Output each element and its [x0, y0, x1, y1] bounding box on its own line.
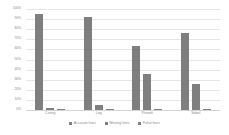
bar — [203, 109, 211, 110]
bar — [132, 46, 140, 110]
legend-label: Missing lines — [109, 121, 129, 125]
bar — [143, 74, 151, 110]
legend-swatch-icon — [138, 122, 141, 125]
bar — [57, 109, 65, 110]
y-axis-tick-label: 50% — [15, 58, 22, 62]
bar — [84, 17, 92, 110]
y-axis-tick-label: 60% — [15, 48, 22, 52]
bar-group — [123, 9, 172, 110]
plot-area — [26, 9, 220, 110]
legend-swatch-icon — [105, 122, 108, 125]
y-axis-tick-label: 30% — [15, 78, 22, 82]
bar — [192, 84, 200, 110]
bar-group — [75, 9, 124, 110]
bars-layer — [26, 9, 220, 110]
y-axis-tick-label: 100% — [13, 7, 21, 11]
y-axis-tick-label: 40% — [15, 68, 22, 72]
y-axis-tick-label: 0% — [16, 108, 21, 112]
bar — [154, 109, 162, 110]
bar — [181, 33, 189, 110]
bar — [35, 14, 43, 110]
bar-chart: 0%10%20%30%40%50%60%70%80%90%100% CannyL… — [0, 0, 229, 135]
y-axis-tick-label: 70% — [15, 38, 22, 42]
bar-group — [172, 9, 221, 110]
x-axis-tick-label: Canny — [45, 111, 55, 116]
legend-item[interactable]: Accurate lines — [69, 121, 96, 125]
x-axis-tick-label: Log — [96, 111, 102, 116]
chart-legend: Accurate linesMissing linesFalse lines — [0, 121, 229, 125]
y-axis-tick-label: 20% — [15, 88, 22, 92]
bar — [106, 109, 114, 110]
y-axis: 0%10%20%30%40%50%60%70%80%90%100% — [0, 9, 24, 110]
bar — [46, 108, 54, 110]
y-axis-tick-label: 80% — [15, 27, 22, 31]
x-axis-tick-label: Prewitt — [142, 111, 153, 116]
legend-swatch-icon — [69, 122, 72, 125]
legend-item[interactable]: Missing lines — [105, 121, 130, 125]
legend-label: Accurate lines — [74, 121, 96, 125]
x-axis: CannyLogPrewittSobel — [26, 111, 220, 121]
legend-item[interactable]: False lines — [138, 121, 159, 125]
bar — [95, 105, 103, 110]
legend-label: False lines — [143, 121, 160, 125]
bar-group — [26, 9, 75, 110]
y-axis-tick-label: 90% — [15, 17, 22, 21]
y-axis-tick-label: 10% — [15, 98, 22, 102]
x-axis-tick-label: Sobel — [191, 111, 200, 116]
